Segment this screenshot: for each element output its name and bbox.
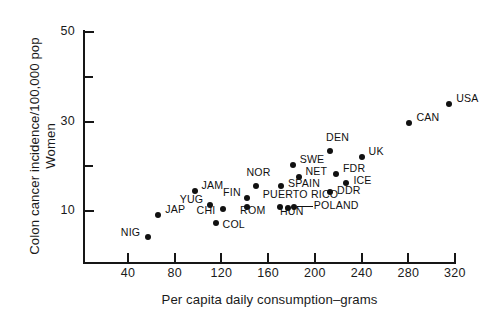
x-tick-120 (220, 253, 222, 263)
data-point-jap (155, 212, 161, 218)
x-tick-label-160: 160 (248, 266, 288, 280)
data-label-nor: NOR (246, 166, 270, 178)
y-tick-30 (85, 121, 94, 123)
data-point-uk (359, 154, 365, 160)
x-tick-label-280: 280 (388, 266, 428, 280)
y-tick-minor-20 (85, 165, 93, 167)
data-label-swe: SWE (300, 153, 325, 165)
data-label-fdr: FDR (343, 162, 365, 174)
data-point-fin (244, 195, 250, 201)
scatter-plot: Colon cancer incidence/100,000 pop Women… (0, 0, 486, 324)
y-tick-label-10: 10 (47, 203, 75, 217)
data-point-swe (290, 162, 296, 168)
x-tick-label-40: 40 (108, 266, 148, 280)
data-point-den (327, 148, 333, 154)
x-tick-40 (127, 253, 129, 263)
y-axis-title: Colon cancer incidence/100,000 pop Women (27, 31, 59, 261)
data-label-den: DEN (326, 131, 349, 143)
data-point-net (296, 174, 302, 180)
data-point-nig (145, 234, 151, 240)
data-label-rom: ROM (240, 204, 265, 216)
leader-line-poland (297, 206, 313, 207)
y-tick-10 (85, 210, 94, 212)
x-tick-label-80: 80 (155, 266, 195, 280)
data-point-ddr (327, 189, 333, 195)
x-tick-320 (454, 253, 456, 263)
y-tick-50 (85, 31, 94, 33)
data-label-jap: JAP (165, 203, 185, 215)
y-tick-label-50: 50 (47, 24, 75, 38)
data-label-uk: UK (369, 145, 384, 157)
data-label-net: NET (306, 165, 328, 177)
data-point-nor (253, 183, 259, 189)
data-label-ice: ICE (353, 174, 371, 186)
data-label-chi: CHI (197, 204, 216, 216)
y-tick-minor-40 (85, 76, 93, 78)
x-tick-200 (314, 253, 316, 263)
x-axis-line (83, 262, 456, 264)
x-tick-label-120: 120 (201, 266, 241, 280)
data-point-can (406, 120, 412, 126)
x-tick-label-240: 240 (342, 266, 382, 280)
data-point-usa (446, 101, 452, 107)
y-axis-line (83, 30, 85, 264)
x-tick-label-200: 200 (295, 266, 335, 280)
data-point-poland (291, 204, 297, 210)
x-tick-160 (267, 253, 269, 263)
data-label-usa: USA (456, 92, 478, 104)
data-label-can: CAN (416, 111, 439, 123)
x-tick-80 (174, 253, 176, 263)
data-label-jam: JAM (202, 179, 224, 191)
x-tick-280 (407, 253, 409, 263)
x-axis-title: Per capita daily consumption–grams (83, 292, 456, 307)
data-label-col: COL (223, 218, 245, 230)
y-tick-label-30: 30 (47, 114, 75, 128)
data-label-fin: FIN (223, 186, 241, 198)
x-tick-240 (361, 253, 363, 263)
data-point-col (213, 220, 219, 226)
data-point-chi (220, 206, 226, 212)
data-point-fdr (333, 171, 339, 177)
x-tick-label-320: 320 (435, 266, 475, 280)
data-label-nig: NIG (121, 226, 140, 238)
data-label-poland: POLAND (314, 199, 359, 211)
